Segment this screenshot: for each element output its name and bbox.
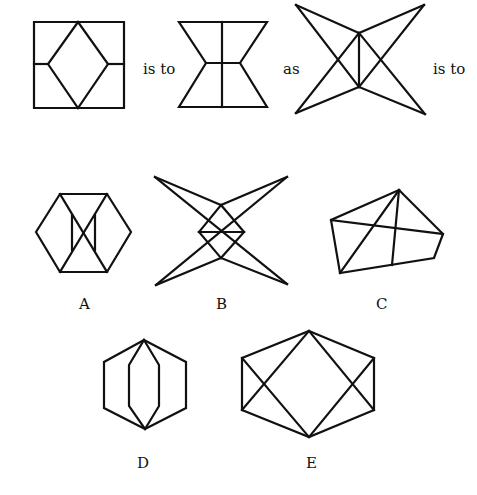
option-d-label: D — [137, 456, 149, 471]
figure-2-hourglass — [179, 22, 267, 107]
option-b-label: B — [216, 297, 227, 312]
connector-as: as — [283, 62, 300, 77]
analogy-diagram — [0, 0, 477, 495]
connector-is-to-2: is to — [433, 62, 465, 77]
figure-1-square-diamond — [34, 22, 124, 108]
option-c-label: C — [376, 297, 387, 312]
connector-is-to-1: is to — [143, 62, 175, 77]
option-d-figure[interactable] — [104, 340, 186, 429]
option-a-figure[interactable] — [36, 194, 131, 272]
option-b-figure[interactable] — [155, 177, 287, 285]
option-c-figure[interactable] — [331, 190, 443, 273]
figure-3-star-vertical — [296, 5, 425, 114]
option-e-label: E — [306, 456, 317, 471]
option-a-label: A — [79, 297, 90, 312]
option-e-figure[interactable] — [242, 331, 374, 437]
